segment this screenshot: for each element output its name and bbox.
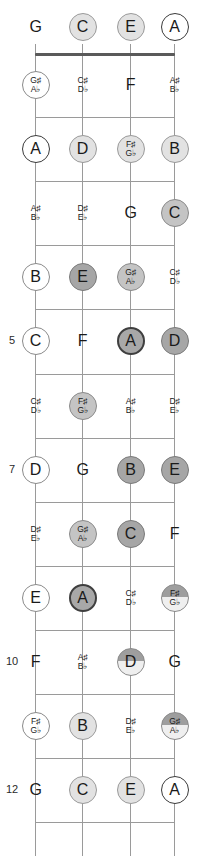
note-4-e[interactable]: G♯A♭ — [117, 263, 145, 291]
note-natural-label: G — [124, 205, 136, 221]
note-natural-label: F — [126, 77, 135, 93]
note-9-e[interactable]: C♯D♭ — [117, 584, 145, 612]
note-flat-label: A♭ — [78, 534, 87, 543]
note-natural-label: E — [77, 269, 87, 285]
note-10-c[interactable]: A♯B♭ — [69, 648, 97, 676]
note-7-c[interactable]: G — [69, 456, 97, 484]
fret-wire-3 — [35, 245, 175, 246]
note-4-a[interactable]: C♯D♭ — [161, 263, 189, 291]
note-flat-label: D♭ — [78, 85, 88, 94]
note-2-e[interactable]: F♯G♭ — [117, 135, 145, 163]
fret-wire-9 — [35, 630, 175, 631]
note-natural-label: A — [169, 782, 179, 798]
note-flat-label: G♭ — [125, 149, 135, 158]
note-natural-label: F — [170, 526, 179, 542]
fret-wire-2 — [35, 181, 175, 182]
note-6-e[interactable]: A♯B♭ — [117, 392, 145, 420]
note-flat-label: E♭ — [170, 406, 179, 415]
note-flat-label: B♭ — [126, 406, 135, 415]
note-8-a[interactable]: F — [161, 520, 189, 548]
note-flat-label: D♭ — [31, 406, 41, 415]
note-flat-label: A♭ — [126, 277, 135, 286]
note-4-g[interactable]: B — [22, 263, 50, 291]
fret-number-5: 5 — [0, 334, 24, 346]
note-5-c[interactable]: F — [69, 327, 97, 355]
note-flat-label: E♭ — [126, 726, 135, 735]
note-flat-label: G♭ — [169, 598, 179, 607]
note-3-c[interactable]: D♯E♭ — [69, 199, 97, 227]
note-7-g[interactable]: D — [22, 456, 50, 484]
note-6-g[interactable]: C♯D♭ — [22, 392, 50, 420]
note-flat-label: A♭ — [170, 726, 179, 735]
note-10-e[interactable]: D — [117, 648, 145, 676]
note-9-g[interactable]: E — [22, 584, 50, 612]
note-1-g[interactable]: G♯A♭ — [22, 71, 50, 99]
note-3-a[interactable]: C — [161, 199, 189, 227]
note-natural-label: C — [169, 205, 180, 221]
note-12-g[interactable]: G — [22, 776, 50, 804]
note-9-c[interactable]: A — [69, 584, 97, 612]
note-8-g[interactable]: D♯E♭ — [22, 520, 50, 548]
note-natural-label: A — [125, 333, 135, 349]
note-natural-label: B — [125, 462, 135, 478]
note-5-g[interactable]: C — [22, 327, 50, 355]
note-7-a[interactable]: E — [161, 456, 189, 484]
note-1-a[interactable]: A♯B♭ — [161, 71, 189, 99]
note-natural-label: D — [125, 654, 136, 670]
note-6-c[interactable]: F♯G♭ — [69, 392, 97, 420]
note-8-c[interactable]: G♯A♭ — [69, 520, 97, 548]
note-12-c[interactable]: C — [69, 776, 97, 804]
note-natural-label: E — [169, 462, 179, 478]
note-3-e[interactable]: G — [117, 199, 145, 227]
note-flat-label: D♭ — [170, 277, 180, 286]
note-0-e[interactable]: E — [117, 13, 145, 41]
fret-number-10: 10 — [0, 655, 24, 667]
note-11-a[interactable]: G♯A♭ — [161, 712, 189, 740]
note-natural-label: D — [77, 141, 88, 157]
note-2-a[interactable]: B — [161, 135, 189, 163]
note-5-e[interactable]: A — [117, 327, 145, 355]
note-11-c[interactable]: B — [69, 712, 97, 740]
note-10-g[interactable]: F — [22, 648, 50, 676]
note-flat-label: A♭ — [31, 85, 40, 94]
fret-wire-6 — [35, 438, 175, 439]
note-natural-label: D — [30, 462, 41, 478]
note-natural-label: G — [168, 654, 180, 670]
note-natural-label: A — [30, 141, 40, 157]
note-flat-label: E♭ — [78, 213, 87, 222]
note-2-g[interactable]: A — [22, 135, 50, 163]
note-natural-label: G — [29, 19, 41, 35]
note-natural-label: C — [77, 19, 88, 35]
note-natural-label: G — [76, 462, 88, 478]
note-natural-label: E — [30, 590, 40, 606]
note-6-a[interactable]: D♯E♭ — [161, 392, 189, 420]
note-natural-label: E — [125, 782, 135, 798]
note-1-c[interactable]: C♯D♭ — [69, 71, 97, 99]
note-8-e[interactable]: C — [117, 520, 145, 548]
note-0-a[interactable]: A — [161, 13, 189, 41]
note-5-a[interactable]: D — [161, 327, 189, 355]
note-flat-label: D♭ — [126, 598, 136, 607]
note-10-a[interactable]: G — [161, 648, 189, 676]
note-4-c[interactable]: E — [69, 263, 97, 291]
note-natural-label: B — [30, 269, 40, 285]
note-7-e[interactable]: B — [117, 456, 145, 484]
note-0-c[interactable]: C — [69, 13, 97, 41]
note-natural-label: B — [77, 718, 87, 734]
note-1-e[interactable]: F — [117, 71, 145, 99]
note-12-a[interactable]: A — [161, 776, 189, 804]
fret-wire-7 — [35, 502, 175, 503]
note-11-g[interactable]: F♯G♭ — [22, 712, 50, 740]
note-9-a[interactable]: F♯G♭ — [161, 584, 189, 612]
fret-wire-4 — [35, 309, 175, 310]
note-natural-label: C — [30, 333, 41, 349]
note-2-c[interactable]: D — [69, 135, 97, 163]
note-natural-label: A — [169, 19, 179, 35]
note-3-g[interactable]: A♯B♭ — [22, 199, 50, 227]
note-0-g[interactable]: G — [22, 13, 50, 41]
fret-wire-8 — [35, 566, 175, 567]
note-natural-label: E — [125, 19, 135, 35]
note-12-e[interactable]: E — [117, 776, 145, 804]
note-11-e[interactable]: D♯E♭ — [117, 712, 145, 740]
fret-wire-10 — [35, 694, 175, 695]
